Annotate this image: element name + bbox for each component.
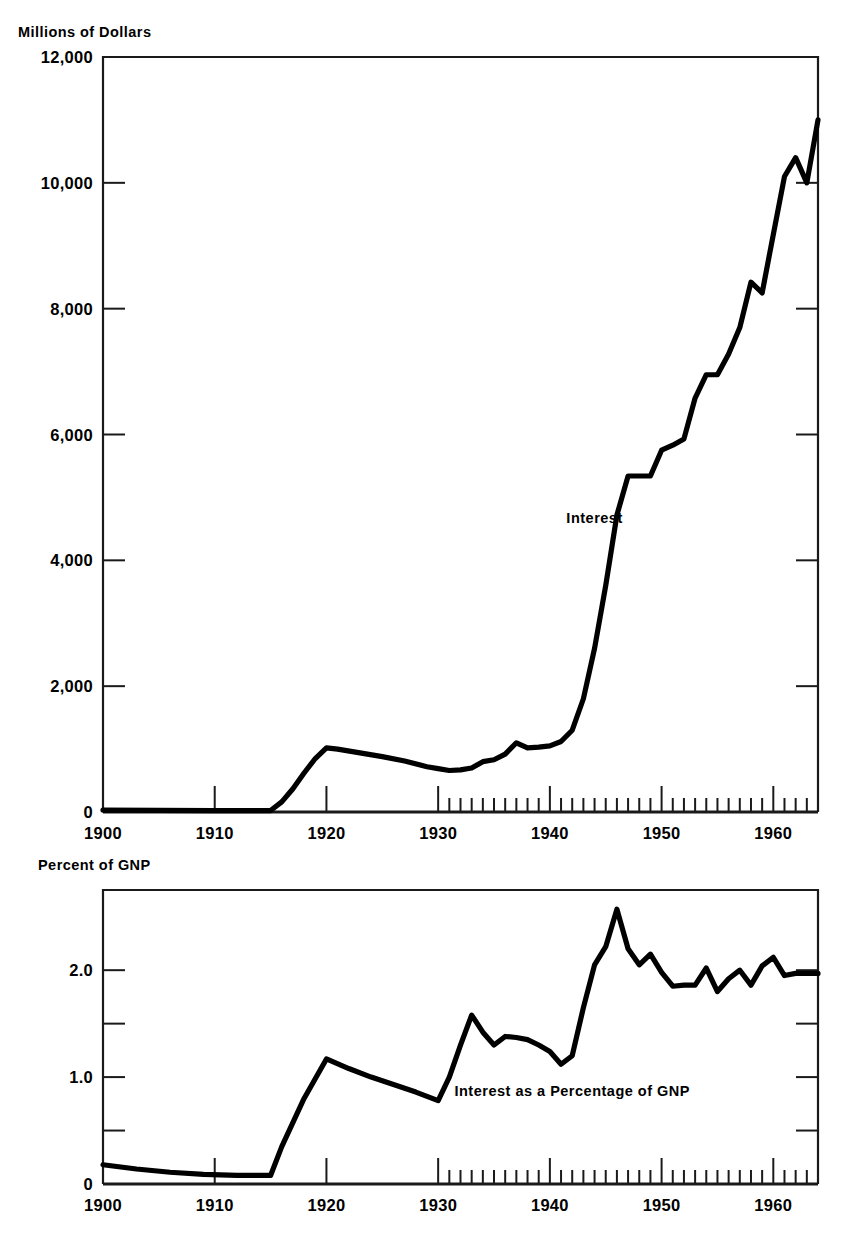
plot-frame bbox=[103, 890, 818, 1184]
y-axis-tick-label: 0 bbox=[84, 803, 93, 821]
x-axis-tick-label: 1950 bbox=[643, 1196, 681, 1214]
interest-dollars-plot: 02,0004,0006,0008,00010,00012,0001900191… bbox=[0, 44, 841, 844]
data-series-line bbox=[103, 120, 818, 811]
x-axis-tick-label: 1930 bbox=[419, 1196, 457, 1214]
top-chart: 02,0004,0006,0008,00010,00012,0001900191… bbox=[0, 44, 841, 844]
x-axis-tick-label: 1920 bbox=[307, 824, 345, 842]
x-axis-tick-label: 1920 bbox=[307, 1196, 345, 1214]
bottom-chart: 01.02.01900191019201930194019501960Inter… bbox=[0, 876, 841, 1248]
x-axis-tick-label: 1930 bbox=[419, 824, 457, 842]
x-axis-tick-label: 1940 bbox=[531, 824, 569, 842]
x-axis-tick-label: 1960 bbox=[754, 1196, 792, 1214]
y-axis-tick-label: 6,000 bbox=[50, 426, 93, 444]
interest-percent-gnp-plot: 01.02.01900191019201930194019501960Inter… bbox=[0, 876, 841, 1248]
figure-page: Millions of Dollars 02,0004,0006,0008,00… bbox=[0, 0, 841, 1248]
y-axis-tick-label: 2,000 bbox=[50, 677, 93, 695]
x-axis-tick-label: 1910 bbox=[196, 1196, 234, 1214]
top-chart-y-axis-caption: Millions of Dollars bbox=[18, 24, 151, 40]
y-axis-tick-label: 12,000 bbox=[41, 48, 93, 66]
bottom-chart-y-axis-caption: Percent of GNP bbox=[38, 857, 151, 873]
x-axis-tick-label: 1900 bbox=[84, 824, 122, 842]
y-axis-tick-label: 2.0 bbox=[69, 961, 93, 979]
y-axis-tick-label: 1.0 bbox=[69, 1068, 93, 1086]
x-axis-tick-label: 1940 bbox=[531, 1196, 569, 1214]
series-annotation-label: Interest as a Percentage of GNP bbox=[454, 1083, 690, 1099]
y-axis-tick-label: 8,000 bbox=[50, 300, 93, 318]
x-axis-tick-label: 1950 bbox=[643, 824, 681, 842]
x-axis-tick-label: 1900 bbox=[84, 1196, 122, 1214]
y-axis-tick-label: 4,000 bbox=[50, 551, 93, 569]
y-axis-tick-label: 10,000 bbox=[41, 174, 93, 192]
plot-frame bbox=[103, 57, 818, 812]
y-axis-tick-label: 0 bbox=[84, 1175, 93, 1193]
x-axis-tick-label: 1960 bbox=[754, 824, 792, 842]
data-series-line bbox=[103, 909, 818, 1175]
x-axis-tick-label: 1910 bbox=[196, 824, 234, 842]
series-annotation-label: Interest bbox=[566, 510, 622, 526]
